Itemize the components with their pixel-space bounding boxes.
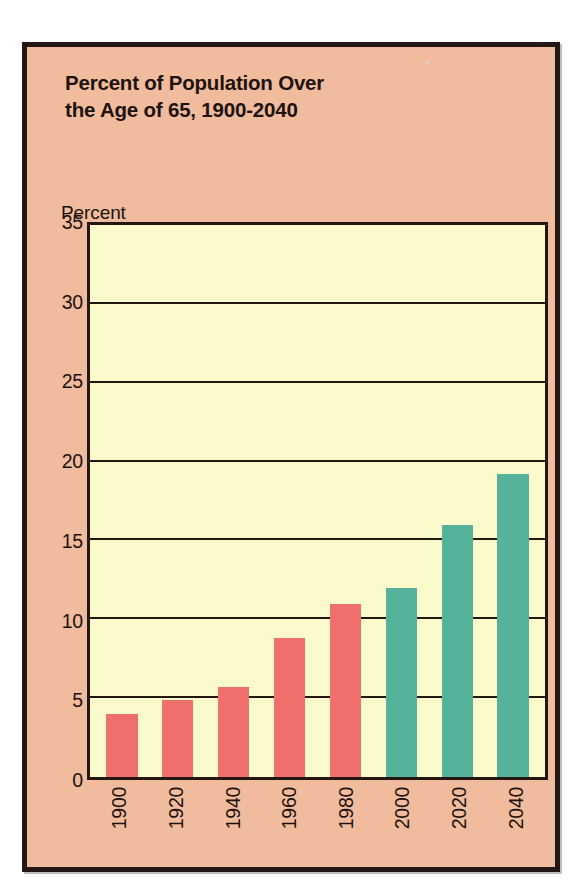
y-tick-label: 25 (37, 370, 83, 393)
bar-2020[interactable] (442, 525, 473, 777)
x-slot: 1940 (204, 785, 261, 871)
bar-slot (318, 225, 374, 777)
plot-area (87, 222, 548, 780)
y-tick-label: 35 (37, 211, 83, 234)
bar-slot (485, 225, 541, 777)
bar-series (90, 225, 545, 777)
x-tick-label-2040: 2040 (504, 787, 527, 829)
bar-slot (150, 225, 206, 777)
x-slot: 1980 (318, 785, 375, 871)
scan-speck (425, 61, 429, 65)
x-slot: 1920 (148, 785, 205, 871)
x-tick-label-1920: 1920 (164, 787, 187, 829)
chart-poster-frame: Percent of Population Over the Age of 65… (22, 42, 560, 872)
bar-2040[interactable] (497, 474, 528, 777)
x-tick-label-1940: 1940 (221, 787, 244, 829)
y-axis-tick-labels: 05101520253035 (35, 222, 83, 780)
x-axis-tick-labels: 19001920194019601980200020202040 (87, 785, 548, 871)
x-slot: 1900 (91, 785, 148, 871)
bar-1920[interactable] (162, 700, 193, 777)
chart-title: Percent of Population Over the Age of 65… (65, 69, 485, 123)
y-tick-label: 30 (37, 290, 83, 313)
x-tick-label-1960: 1960 (278, 787, 301, 829)
bar-slot (206, 225, 262, 777)
x-tick-label-2000: 2000 (391, 787, 414, 829)
x-slot: 2000 (374, 785, 431, 871)
bar-1960[interactable] (274, 638, 305, 777)
bar-2000[interactable] (386, 588, 417, 777)
y-tick-label: 5 (37, 689, 83, 712)
bar-slot (373, 225, 429, 777)
y-tick-label: 20 (37, 450, 83, 473)
bar-slot (94, 225, 150, 777)
x-slot: 2040 (487, 785, 544, 871)
x-tick-label-1900: 1900 (108, 787, 131, 829)
y-tick-label: 0 (37, 769, 83, 792)
x-tick-label-2020: 2020 (448, 787, 471, 829)
bar-slot (429, 225, 485, 777)
bar-1940[interactable] (218, 687, 249, 777)
y-tick-label: 15 (37, 529, 83, 552)
bar-1900[interactable] (106, 714, 137, 777)
y-tick-label: 10 (37, 609, 83, 632)
bar-slot (262, 225, 318, 777)
x-slot: 1960 (261, 785, 318, 871)
x-tick-label-1980: 1980 (334, 787, 357, 829)
bar-1980[interactable] (330, 604, 361, 777)
x-slot: 2020 (431, 785, 488, 871)
